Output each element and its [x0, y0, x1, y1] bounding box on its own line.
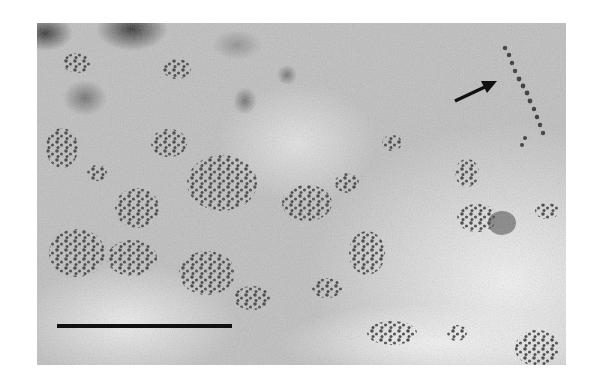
electron-micrograph	[37, 23, 566, 365]
micrograph-canvas	[37, 23, 566, 365]
grain-texture	[37, 23, 566, 365]
